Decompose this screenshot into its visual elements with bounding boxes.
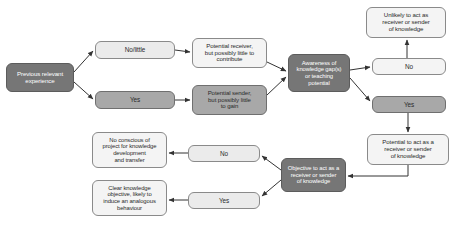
- node-no-conscious-project[interactable]: No conscious of project for knowledge de…: [92, 132, 167, 168]
- connector-receiver-to-awareness: [267, 62, 286, 71]
- node-label: Clear knowledge objective, likely to ind…: [103, 185, 155, 211]
- node-awareness-of-knowledge-gaps[interactable]: Awareness of knowledge gap(s) or teachin…: [288, 54, 350, 92]
- node-label: No/little: [125, 46, 145, 53]
- node-label: Potential to act as a receiver or sender…: [382, 139, 433, 159]
- node-label: No conscious of project for knowledge de…: [103, 137, 157, 163]
- node-label: Potential sender, but possibly little to…: [208, 90, 252, 110]
- flowchart-canvas: Previous relevant experience No/little Y…: [0, 0, 461, 226]
- node-label: Yes: [404, 101, 414, 108]
- node-yes-objective[interactable]: Yes: [188, 192, 260, 209]
- node-label: Objective to act as a receiver or sender…: [288, 165, 339, 185]
- connector-experience-to-nolittle: [74, 51, 93, 72]
- connector-objective-to-yes: [262, 180, 281, 196]
- node-label: No: [220, 150, 228, 157]
- node-potential-sender[interactable]: Potential sender, but possibly little to…: [192, 85, 267, 115]
- node-unlikely-to-act[interactable]: Unlikely to act as receiver or sender of…: [366, 7, 446, 38]
- node-label: Unlikely to act as receiver or sender of…: [382, 12, 429, 32]
- node-no-little[interactable]: No/little: [95, 41, 175, 59]
- node-label: Previous relevant experience: [17, 71, 63, 85]
- node-no-awareness[interactable]: No: [372, 58, 446, 75]
- node-label: Awareness of knowledge gap(s) or teachin…: [297, 60, 342, 86]
- node-no-objective[interactable]: No: [188, 145, 260, 162]
- node-label: Potential receiver, but possibly little …: [205, 43, 254, 63]
- node-yes-awareness[interactable]: Yes: [372, 96, 446, 113]
- node-potential-to-act[interactable]: Potential to act as a receiver or sender…: [367, 134, 449, 165]
- node-yes-experience[interactable]: Yes: [95, 91, 175, 109]
- connector-potential-to-objective: [348, 165, 408, 176]
- node-label: No: [405, 63, 413, 70]
- connector-objective-to-no: [262, 156, 281, 170]
- node-previous-relevant-experience[interactable]: Previous relevant experience: [6, 63, 74, 92]
- node-potential-receiver[interactable]: Potential receiver, but possibly little …: [192, 38, 267, 68]
- node-clear-knowledge-objective[interactable]: Clear knowledge objective, likely to ind…: [92, 180, 167, 216]
- node-objective-to-act[interactable]: Objective to act as a receiver or sender…: [281, 158, 346, 192]
- connector-experience-to-yes: [74, 82, 93, 99]
- node-label: Yes: [130, 96, 140, 103]
- node-label: Yes: [219, 197, 229, 204]
- connector-awareness-to-yes: [350, 78, 370, 101]
- connector-nolittle-to-receiver: [175, 50, 190, 52]
- connector-awareness-to-no: [350, 67, 370, 70]
- connector-sender-to-awareness: [267, 77, 286, 95]
